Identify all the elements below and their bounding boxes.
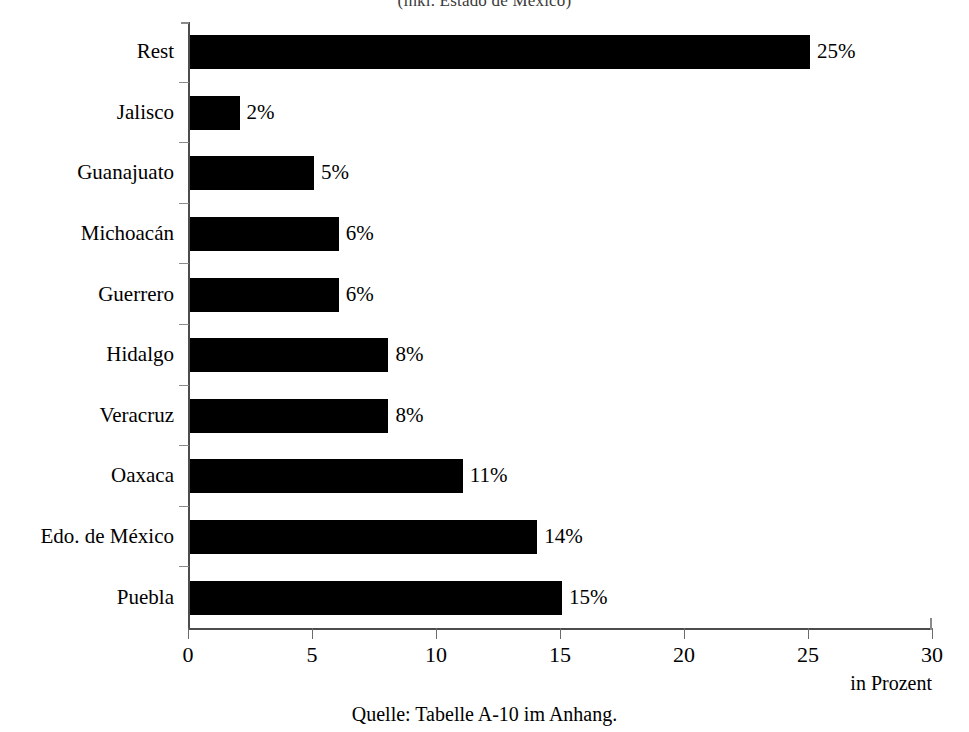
value-axis-tick-label: 25 bbox=[773, 644, 843, 666]
value-axis-tick bbox=[560, 628, 561, 639]
value-axis-tick bbox=[932, 628, 933, 639]
category-label: Puebla bbox=[0, 587, 188, 608]
bar-value-label: 15% bbox=[562, 587, 608, 608]
bar-value-label: 25% bbox=[810, 41, 856, 62]
value-axis-tick bbox=[312, 628, 313, 639]
category-label: Edo. de México bbox=[0, 526, 188, 547]
bar bbox=[190, 520, 537, 554]
bar bbox=[190, 156, 314, 190]
value-axis-tick-label: 0 bbox=[153, 644, 223, 666]
category-label: Michoacán bbox=[0, 223, 188, 244]
bar bbox=[190, 581, 562, 615]
bar-row: Guanajuato5% bbox=[188, 143, 932, 204]
bar-value-label: 8% bbox=[388, 405, 423, 426]
value-axis-tick-label: 5 bbox=[277, 644, 347, 666]
bar bbox=[190, 96, 240, 130]
bar-value-label: 6% bbox=[339, 223, 374, 244]
bar bbox=[190, 217, 339, 251]
value-axis-tick-label: 20 bbox=[649, 644, 719, 666]
source-note: Quelle: Tabelle A-10 im Anhang. bbox=[0, 703, 969, 726]
bar bbox=[190, 399, 388, 433]
chart-title: (inkl. Estado de México) bbox=[0, 0, 969, 11]
bar-value-label: 6% bbox=[339, 284, 374, 305]
bar-row: Puebla15% bbox=[188, 567, 932, 628]
bar bbox=[190, 459, 463, 493]
bar-row: Veracruz8% bbox=[188, 386, 932, 447]
bar bbox=[190, 338, 388, 372]
bar-row: Jalisco2% bbox=[188, 83, 932, 144]
category-label: Hidalgo bbox=[0, 344, 188, 365]
bar-row: Edo. de México14% bbox=[188, 507, 932, 568]
value-axis-tick bbox=[808, 628, 809, 639]
category-label: Veracruz bbox=[0, 405, 188, 426]
bar-value-label: 14% bbox=[537, 526, 583, 547]
category-label: Guanajuato bbox=[0, 162, 188, 183]
category-label: Guerrero bbox=[0, 284, 188, 305]
bar-row: Michoacán6% bbox=[188, 204, 932, 265]
value-axis-tick-label: 15 bbox=[525, 644, 595, 666]
value-axis-tick bbox=[436, 628, 437, 639]
bar bbox=[190, 35, 810, 69]
bar-value-label: 8% bbox=[388, 344, 423, 365]
category-label: Jalisco bbox=[0, 102, 188, 123]
value-axis-tick-label: 10 bbox=[401, 644, 471, 666]
category-label: Rest bbox=[0, 41, 188, 62]
bar-value-label: 2% bbox=[240, 102, 275, 123]
bar bbox=[190, 278, 339, 312]
bar-row: Rest25% bbox=[188, 22, 932, 83]
bar-row: Guerrero6% bbox=[188, 264, 932, 325]
axis-unit-label: in Prozent bbox=[0, 672, 932, 695]
category-label: Oaxaca bbox=[0, 465, 188, 486]
bar-value-label: 5% bbox=[314, 162, 349, 183]
value-axis-tick bbox=[684, 628, 685, 639]
bar-value-label: 11% bbox=[463, 465, 508, 486]
value-axis-tick bbox=[188, 628, 189, 639]
value-axis-tick-label: 30 bbox=[897, 644, 967, 666]
bar-row: Oaxaca11% bbox=[188, 446, 932, 507]
bar-row: Hidalgo8% bbox=[188, 325, 932, 386]
plot-area: Rest25%Jalisco2%Guanajuato5%Michoacán6%G… bbox=[188, 22, 932, 628]
